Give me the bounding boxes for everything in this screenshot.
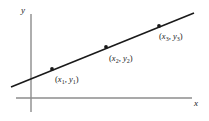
y-axis-label: y bbox=[21, 6, 25, 15]
axes-group bbox=[16, 14, 192, 112]
y-subscript: 3 bbox=[177, 36, 180, 42]
data-point-marker-1 bbox=[50, 67, 54, 71]
plotted-line-group bbox=[11, 13, 194, 87]
fitted-line bbox=[11, 13, 194, 87]
coordinate-plane-figure: y x (x1, y1) (x2, y2) (x3, y3) bbox=[0, 0, 209, 121]
x-axis-label: x bbox=[194, 99, 198, 108]
paren-close: ) bbox=[180, 31, 183, 41]
figure-canvas bbox=[0, 0, 209, 121]
point-label-1: (x1, y1) bbox=[55, 75, 79, 84]
paren-close: ) bbox=[76, 74, 79, 84]
y-subscript: 1 bbox=[73, 79, 76, 85]
y-subscript: 2 bbox=[127, 58, 130, 64]
x-subscript: 2 bbox=[116, 58, 119, 64]
x-subscript: 1 bbox=[62, 79, 65, 85]
paren-close: ) bbox=[130, 53, 133, 63]
data-point-marker-3 bbox=[157, 24, 161, 28]
x-subscript: 3 bbox=[166, 36, 169, 42]
point-label-3: (x3, y3) bbox=[159, 32, 183, 41]
point-label-2: (x2, y2) bbox=[109, 54, 133, 63]
data-point-marker-2 bbox=[104, 45, 108, 49]
